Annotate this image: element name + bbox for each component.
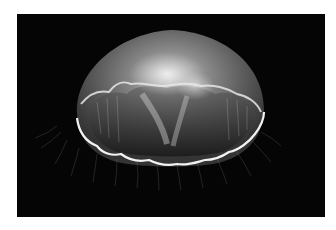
subumbrella (89, 86, 253, 157)
jellyfish-illustration (17, 14, 325, 217)
jellyfish-photo (17, 14, 325, 217)
